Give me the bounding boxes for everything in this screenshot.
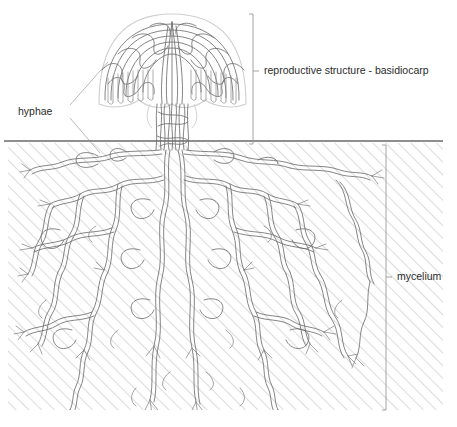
soil-hatch-fill [8,143,443,410]
label-hyphae: hyphae [18,105,53,117]
bracket-basidiocarp-line [249,14,253,144]
diagram-canvas: hyphae reproductive structure - basidioc… [0,0,457,427]
bracket-basidiocarp: reproductive structure - basidiocarp [249,14,429,144]
basidiocarp-cap [99,14,246,128]
label-mycelium: mycelium [397,270,442,282]
label-basidiocarp: reproductive structure - basidiocarp [264,64,429,76]
stipe [156,104,189,150]
soil-region [8,143,443,410]
veil-right [192,104,197,128]
veil-left [147,104,152,128]
fungus-diagram: hyphae reproductive structure - basidioc… [0,0,457,427]
hyphae-callout: hyphae [18,62,108,153]
